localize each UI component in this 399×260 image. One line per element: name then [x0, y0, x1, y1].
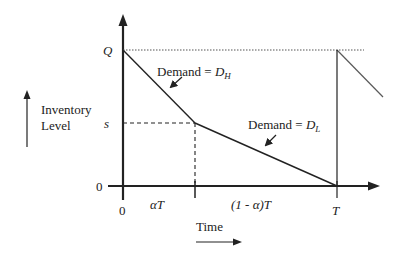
demand-low-prefix: Demand = — [248, 117, 306, 132]
y-axis-arrow-icon — [119, 14, 128, 26]
interval-alphaT-label: αT — [150, 197, 165, 212]
inventory-level-arrow-icon — [24, 90, 31, 99]
y-tick-s-label: s — [104, 116, 109, 131]
demand-high-subscript: H — [223, 71, 231, 81]
y-tick-q-label: Q — [103, 43, 113, 58]
demand-high-symbol: D — [214, 64, 225, 79]
demand-l-pointer-icon — [266, 135, 276, 145]
y-axis-label-line2: Level — [41, 118, 71, 133]
y-tick-zero-label: 0 — [96, 179, 103, 194]
demand-low-annotation: Demand = DL — [248, 117, 320, 134]
x-axis-arrow-icon — [368, 182, 380, 191]
interval-one-minus-alphaT-label: (1 - α)T — [231, 197, 272, 212]
inventory-diagram: Q s 0 0 T αT (1 - α)T Time Inventory Lev… — [0, 0, 399, 260]
demand-low-subscript: L — [314, 124, 320, 134]
high-demand-segment — [123, 50, 195, 123]
demand-high-annotation: Demand = DH — [157, 64, 231, 81]
x-axis-label: Time — [196, 219, 223, 234]
demand-low-symbol: D — [305, 117, 316, 132]
demand-high-prefix: Demand = — [157, 64, 215, 79]
x-tick-t-label: T — [332, 203, 340, 218]
next-cycle-segment — [337, 50, 383, 97]
y-axis-label-line1: Inventory — [41, 102, 92, 117]
x-tick-zero-label: 0 — [119, 203, 126, 218]
time-arrow-icon — [233, 239, 242, 246]
